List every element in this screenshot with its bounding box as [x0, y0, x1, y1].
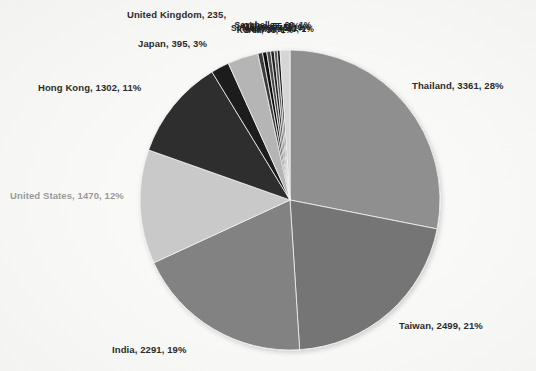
- slice-label-japan: Japan, 395, 3%: [138, 38, 207, 50]
- overlapping-small-slice-labels: Seychelles, 60, 1%China, 55, 1%Malaysia,…: [178, 21, 368, 35]
- slice-label-india: India, 2291, 19%: [112, 344, 186, 356]
- slice-label-united-states: United States, 1470, 12%: [8, 190, 126, 202]
- slice-label-thailand: Thailand, 3361, 28%: [412, 80, 504, 92]
- slice-label-taiwan: Taiwan, 2499, 21%: [399, 320, 483, 332]
- overlapped-slice-label: Korea, 35, 1%: [170, 26, 360, 34]
- slice-label-hong-kong: Hong Kong, 1302, 11%: [38, 82, 141, 94]
- pie-slice-group: [140, 50, 440, 350]
- pie-chart-screenshot: Thailand, 3361, 28% Taiwan, 2499, 21% In…: [0, 0, 536, 371]
- pie-slice-thailand: [290, 50, 440, 229]
- slice-label-united-kingdom: United Kingdom, 235,: [127, 9, 226, 21]
- pie-graphic: [0, 0, 536, 371]
